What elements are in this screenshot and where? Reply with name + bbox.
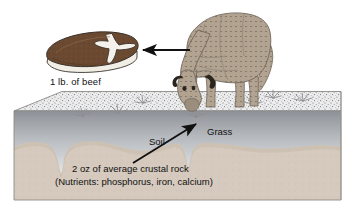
ground-top-surface	[14, 92, 341, 112]
diagram-canvas: 1 lb. of beef Soil Grass 2 oz of average…	[0, 0, 355, 213]
cow-eye-left	[182, 86, 186, 91]
beef-steak	[47, 32, 138, 73]
grass-label: Grass	[207, 126, 232, 137]
nutrients-label: (Nutrients: phosphorus, iron, calcium)	[55, 176, 213, 187]
soil-label: Soil	[149, 136, 165, 147]
cow-eye-right	[192, 86, 196, 90]
crustal-rock-label: 2 oz of average crustal rock	[72, 163, 189, 174]
beef-label: 1 lb. of beef	[50, 76, 101, 87]
cow-muzzle	[185, 99, 200, 112]
